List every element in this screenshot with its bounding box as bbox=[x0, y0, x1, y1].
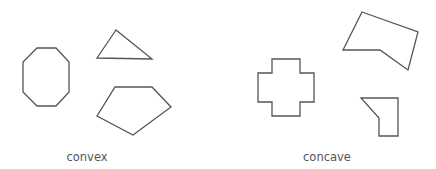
convex-group bbox=[23, 30, 171, 135]
pentagon-shape bbox=[97, 87, 171, 135]
polygon-diagram bbox=[0, 0, 436, 169]
concave-group bbox=[258, 12, 418, 136]
octagon-shape bbox=[23, 48, 69, 106]
concave-pentagon-shape bbox=[343, 12, 418, 70]
convex-label: convex bbox=[66, 150, 107, 164]
cross-shape bbox=[258, 59, 314, 116]
triangle-shape bbox=[97, 30, 152, 59]
concave-quadrilateral-shape bbox=[361, 98, 398, 136]
concave-label: concave bbox=[303, 150, 351, 164]
